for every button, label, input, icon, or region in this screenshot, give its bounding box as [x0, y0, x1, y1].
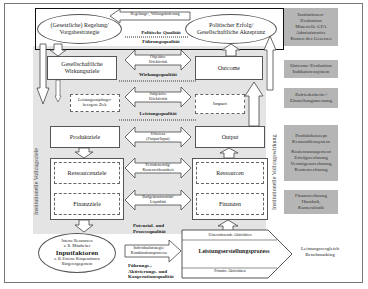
effizienz-label: Effizienz (Output/Input) [135, 132, 181, 142]
ressourcen-box: Ressourcen [196, 162, 264, 184]
kombination-label: Individualstrategie/ Kombinationsprozess… [127, 246, 171, 256]
up-arrow-icon [222, 44, 240, 56]
feedback-label: Regelungs-, Vollzugsänderung [122, 12, 188, 17]
down-arrow-icon [75, 220, 93, 232]
side-panel-outcome: Outcome-Evaluation Indikatorensystem [284, 60, 338, 78]
ressourcenziele-box: Ressourcenziele [54, 162, 120, 184]
up-arrow-icon [264, 36, 276, 90]
potenzial-prozessqualitaet-label: Potenzial- und Prozessqualität [133, 223, 183, 234]
produktziele-box: Produktziele [50, 126, 120, 148]
objektive-effektivitaet-label: Objektive Effektivität [135, 55, 181, 65]
primary-activities-label: Primäre Aktivitäten [200, 269, 260, 274]
dotted-link [119, 80, 197, 82]
dotted-link [119, 119, 197, 121]
leistungsziele-box: Leistungsempfänger- bezogene Ziele [70, 94, 120, 112]
finanzziele-box: Finanzziele [54, 193, 120, 215]
side-panel-institutionen: Institutionen- Evaluation Materielle GFA… [284, 8, 338, 46]
side-panel-finanzrechnung: Finanzrechnung Haushalt, Kameralistik [284, 190, 338, 214]
dotted-link [125, 36, 189, 38]
process-title: Leistungserstellungsprozess [184, 248, 284, 255]
vollzugswirkung-vertical-label: Institutionelle Vollzugswirkung [271, 80, 277, 210]
inputfaktoren-ellipse: Interne Ressourcen z. B. Mitarbeiter Inp… [38, 233, 116, 273]
up-arrow-icon [245, 82, 263, 126]
down-arrow-icon [55, 80, 61, 102]
ressourcen-finanzen-container: Ressourcen Finanzen [192, 158, 268, 220]
up-arrow-icon [220, 148, 238, 158]
down-arrow-icon [50, 44, 66, 56]
fuehrung-aktivierung-label: Führungs-, Aktivierungs- und Kooperation… [128, 263, 188, 280]
side-panel-produkt-kosten: Produktkonzept Kennzahlensystem Kostenma… [284, 125, 338, 181]
ressourcen-finanz-container: Ressourcenziele Finanzziele [50, 158, 124, 220]
vollzugsziele-vertical-label: Institutionelle Vollzugsziele [33, 95, 39, 215]
output-box: Output [195, 126, 265, 148]
kostenwirksamkeit-label: Periodenerfolg/ Kostenwirksamkeit [135, 163, 181, 173]
politische-qualitaet-label: Politische Qualität [131, 30, 191, 36]
side-panel-zufriedenheit: Zufriedenheits-/ Einstellungsmessung [284, 88, 338, 108]
impact-box: Impact [195, 94, 245, 114]
gesellschaftliche-wirkungsziele-box: Gesellschaftliche Wirkungsziele [47, 56, 117, 80]
finanzen-box: Finanzen [196, 193, 264, 215]
budget-liquiditaet-label: Budgetkonformität/ Liquidität [135, 195, 181, 205]
leistungsqualitaet-label: Leistungsqualität [130, 111, 186, 117]
subjektive-effektivitaet-label: Subjektive Effektivität [135, 92, 181, 102]
benchmark-label: Leistungsvergleich Benchmarking [293, 246, 347, 257]
outcome-box: Outcome [195, 56, 263, 80]
diagram-canvas: Regelungs-, Vollzugsänderung (Gesetzlich… [0, 0, 368, 289]
fuehrungsqualitaet-label: Führungsqualität [131, 39, 191, 45]
down-arrow-icon [75, 148, 93, 158]
regelung-ellipse: (Gesetzliche) Regelung/ Vorgabestrategie [37, 14, 122, 44]
wirkungsqualitaet-label: Wirkungsqualität [130, 72, 186, 78]
support-activities-label: Unterstützende Aktivitäten [190, 233, 270, 238]
